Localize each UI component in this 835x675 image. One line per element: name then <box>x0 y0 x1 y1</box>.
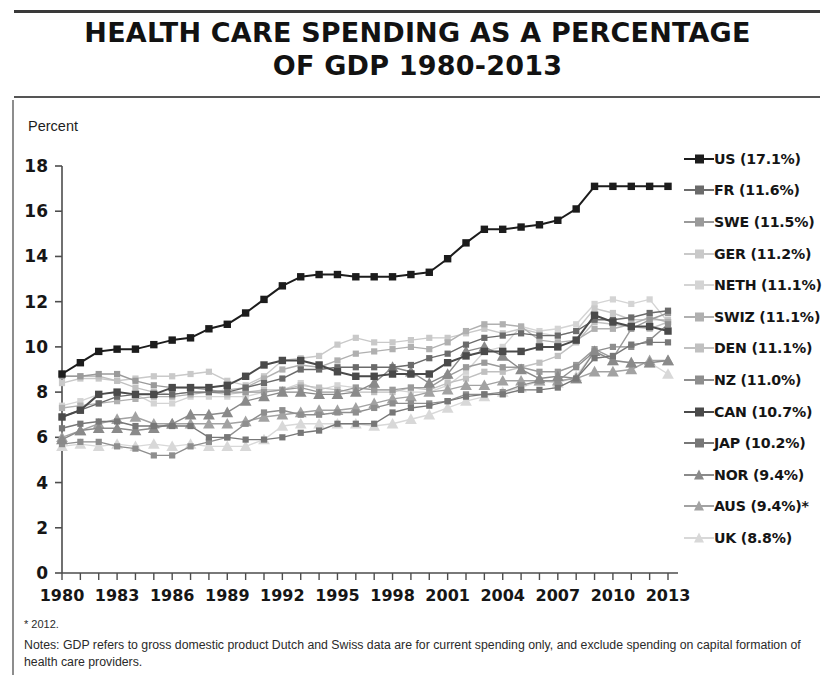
x-tick-label: 2001 <box>425 586 470 605</box>
y-tick-label: 2 <box>36 518 48 538</box>
legend-marker-jap-icon <box>684 435 714 451</box>
legend-marker-nz-icon <box>684 372 714 388</box>
legend-label: SWE (11.5%) <box>714 214 815 230</box>
x-tick-label: 2007 <box>536 586 581 605</box>
legend-item-uk[interactable]: UK (8.8%) <box>684 522 834 554</box>
legend-item-aus[interactable]: AUS (9.4%)* <box>684 491 834 523</box>
legend-label: NETH (11.1%) <box>714 277 822 293</box>
x-tick-label: 1980 <box>40 586 85 605</box>
legend-marker-can-icon <box>684 404 714 420</box>
footnote-asterisk: * 2012. <box>24 618 59 630</box>
legend-item-swiz[interactable]: SWIZ (11.1%) <box>684 301 834 333</box>
legend-marker-swe-icon <box>684 214 714 230</box>
legend-item-jap[interactable]: JAP (10.2%) <box>684 427 834 459</box>
x-tick-label: 1986 <box>150 586 195 605</box>
legend-marker-fr-icon <box>684 182 714 198</box>
legend-marker-uk-icon <box>684 530 714 546</box>
legend-label: AUS (9.4%)* <box>714 498 809 514</box>
y-tick-label: 16 <box>24 201 48 221</box>
series-us <box>58 183 671 378</box>
x-tick-label: 2010 <box>591 586 636 605</box>
legend-label: NOR (9.4%) <box>714 467 804 483</box>
legend-label: DEN (11.1%) <box>714 340 812 356</box>
legend-marker-den-icon <box>684 340 714 356</box>
legend-label: CAN (10.7%) <box>714 404 812 420</box>
legend-label: US (17.1%) <box>714 151 801 167</box>
legend-item-nor[interactable]: NOR (9.4%) <box>684 459 834 491</box>
y-tick-label: 14 <box>24 246 48 266</box>
x-tick-label: 2004 <box>480 586 525 605</box>
legend-item-us[interactable]: US (17.1%) <box>684 143 834 175</box>
series-can <box>58 312 671 421</box>
legend-marker-ger-icon <box>684 246 714 262</box>
y-tick-label: 0 <box>36 563 48 583</box>
legend-item-nz[interactable]: NZ (11.0%) <box>684 364 834 396</box>
legend-label: JAP (10.2%) <box>714 435 806 451</box>
legend-item-neth[interactable]: NETH (11.1%) <box>684 269 834 301</box>
y-tick-label: 18 <box>24 156 48 176</box>
chart-legend: US (17.1%)FR (11.6%)SWE (11.5%)GER (11.2… <box>684 143 834 554</box>
legend-marker-nor-icon <box>684 467 714 483</box>
x-tick-label: 1992 <box>260 586 305 605</box>
legend-marker-neth-icon <box>684 277 714 293</box>
legend-marker-us-icon <box>684 151 714 167</box>
y-tick-label: 6 <box>36 427 48 447</box>
y-tick-label: 10 <box>24 337 48 357</box>
legend-item-can[interactable]: CAN (10.7%) <box>684 396 834 428</box>
x-tick-label: 2013 <box>646 586 691 605</box>
legend-label: GER (11.2%) <box>714 246 811 262</box>
legend-label: NZ (11.0%) <box>714 372 801 388</box>
y-tick-label: 12 <box>24 292 48 312</box>
x-tick-label: 1998 <box>370 586 415 605</box>
y-tick-label: 8 <box>36 382 48 402</box>
legend-item-fr[interactable]: FR (11.6%) <box>684 175 834 207</box>
x-tick-label: 1989 <box>205 586 250 605</box>
legend-item-den[interactable]: DEN (11.1%) <box>684 333 834 365</box>
x-tick-label: 1995 <box>315 586 360 605</box>
x-tick-label: 1983 <box>95 586 140 605</box>
y-tick-label: 4 <box>36 473 48 493</box>
legend-label: SWIZ (11.1%) <box>714 309 820 325</box>
legend-label: FR (11.6%) <box>714 182 800 198</box>
legend-marker-aus-icon <box>684 498 714 514</box>
chart-page: HEALTH CARE SPENDING AS A PERCENTAGE OF … <box>0 0 835 675</box>
legend-label: UK (8.8%) <box>714 530 792 546</box>
legend-marker-swiz-icon <box>684 309 714 325</box>
legend-item-ger[interactable]: GER (11.2%) <box>684 238 834 270</box>
footnote-notes: Notes: GDP refers to gross domestic prod… <box>24 637 804 671</box>
legend-item-swe[interactable]: SWE (11.5%) <box>684 206 834 238</box>
